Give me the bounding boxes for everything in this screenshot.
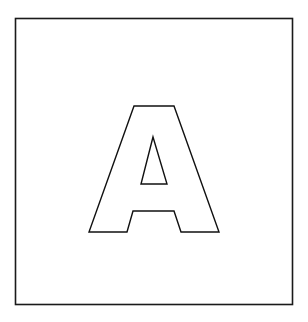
- letter-a-counter: [141, 137, 167, 184]
- letter-a-figure: A: [0, 0, 308, 322]
- letter-a-outline: [89, 106, 219, 232]
- square-frame: [16, 19, 293, 305]
